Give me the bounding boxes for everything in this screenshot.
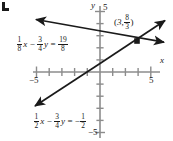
eq1-rhs-denominator: 8 (60, 45, 66, 53)
graph-canvas (0, 0, 173, 141)
eq2-rhs-fraction: 1 2 (80, 113, 87, 129)
y-axis-min-tick-label: −5 (88, 128, 98, 137)
eq1-x-coef-denominator: 8 (17, 45, 23, 53)
intersection-point-marker (134, 38, 140, 44)
equation-two-label: 1 2 x − 3 4 y = − 1 2 (33, 113, 86, 129)
point-label-y-fraction: 8 3 (124, 14, 131, 30)
eq2-operator: − (45, 116, 54, 126)
eq2-equals-sign: = (66, 116, 75, 126)
x-axis-label: x (160, 56, 164, 65)
eq2-y-coefficient-fraction: 3 4 (54, 113, 61, 129)
eq1-operator: − (28, 39, 37, 49)
equation-one-label: 1 8 x − 3 4 y = 19 8 (16, 36, 68, 52)
eq2-rhs-group: − 1 2 (75, 113, 87, 129)
x-axis-max-tick-label: 5 (149, 76, 154, 85)
y-axis-label: y (91, 1, 95, 10)
eq1-x-coefficient-fraction: 1 8 (16, 36, 23, 52)
eq1-y-coefficient-fraction: 3 4 (37, 36, 44, 52)
intersection-point-label: ( 3 , 8 3 ) (114, 14, 134, 30)
eq2-x-coef-denominator: 2 (34, 122, 40, 130)
point-label-close-paren: ) (131, 17, 134, 27)
eq2-rhs-denominator: 2 (80, 122, 86, 130)
coordinate-graph-figure: x y 5 −5 5 −5 ( 3 , 8 3 ) 1 8 x − 3 4 y … (0, 0, 173, 141)
eq1-y-coef-denominator: 4 (37, 45, 43, 53)
y-axis-max-tick-label: 5 (103, 3, 108, 12)
point-y-denominator: 3 (124, 23, 130, 31)
eq1-equals-sign: = (49, 39, 58, 49)
eq1-rhs-fraction: 19 8 (58, 36, 69, 52)
eq2-x-coefficient-fraction: 1 2 (33, 113, 40, 129)
eq2-y-coef-denominator: 4 (54, 122, 60, 130)
x-axis-min-tick-label: −5 (29, 76, 39, 85)
